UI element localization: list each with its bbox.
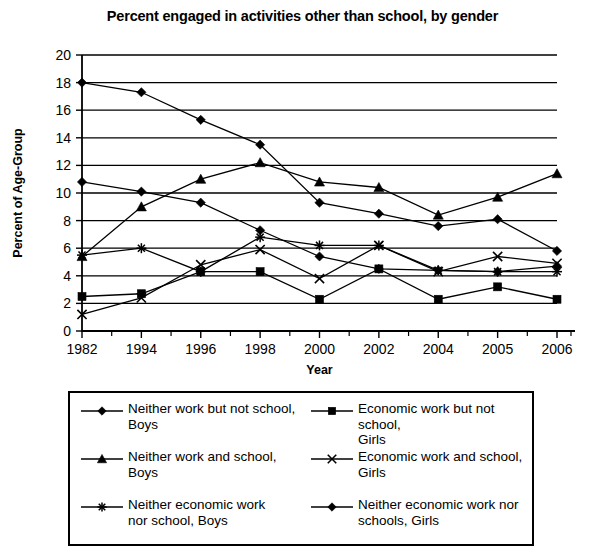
data-point-asterisk-icon: [136, 243, 146, 253]
data-point-asterisk-icon: [315, 240, 325, 250]
data-point-square-icon: [553, 295, 561, 303]
legend-item-neither-economic-work-nor-schools-girls[interactable]: Neither economic work nor schools, Girls: [310, 497, 536, 528]
y-tick-label: 0: [63, 323, 71, 339]
data-point-square-icon: [256, 268, 264, 276]
x-tick-label: 2004: [423, 341, 454, 357]
legend-marker-diamond-icon: [80, 402, 124, 420]
data-point-diamond-icon: [374, 209, 383, 218]
x-axis-title: Year: [306, 363, 333, 377]
data-point-cross-icon: [256, 245, 265, 254]
legend-label: Economic work and school, Girls: [358, 449, 522, 480]
plot-area: 02468101214161820 1982199419961998200020…: [0, 30, 605, 380]
y-tick-label: 10: [55, 185, 71, 201]
legend-item-economic-work-but-not-school-girls[interactable]: Economic work but not school, Girls: [310, 401, 536, 448]
y-tick-label: 14: [55, 130, 71, 146]
x-tick-label: 1994: [126, 341, 157, 357]
legend-marker-asterisk-icon: [80, 498, 124, 516]
series-3: [78, 265, 561, 303]
y-tick-label: 18: [55, 75, 71, 91]
legend-marker-cross-icon: [310, 450, 354, 468]
data-point-diamond-icon: [98, 407, 106, 415]
data-point-asterisk-icon: [97, 502, 106, 511]
data-point-diamond-icon: [196, 198, 205, 207]
data-point-diamond-icon: [77, 78, 86, 87]
x-tick-label: 2000: [304, 341, 335, 357]
x-tick-label: 1996: [185, 341, 216, 357]
y-tick-label: 2: [63, 295, 71, 311]
data-point-square-icon: [494, 283, 502, 291]
series-layer: [77, 78, 562, 319]
data-point-triangle-icon: [136, 202, 146, 211]
x-tick-label: 1998: [245, 341, 276, 357]
chart-title: Percent engaged in activities other than…: [0, 8, 605, 24]
data-point-diamond-icon: [196, 115, 205, 124]
data-point-diamond-icon: [137, 187, 146, 196]
x-axis: 198219941996199820002002200420052006: [66, 331, 575, 357]
legend-label: Economic work but not school, Girls: [358, 401, 536, 448]
legend: Neither work but not school, Boys Neithe…: [68, 391, 534, 546]
chart-root: Percent engaged in activities other than…: [0, 0, 605, 560]
data-point-diamond-icon: [137, 88, 146, 97]
data-point-diamond-icon: [77, 177, 86, 186]
legend-item-neither-work-but-not-school-boys[interactable]: Neither work but not school, Boys: [80, 401, 310, 432]
y-tick-label: 4: [63, 268, 71, 284]
data-point-square-icon: [78, 293, 86, 301]
series-5: [77, 177, 561, 276]
legend-item-neither-work-and-school-boys[interactable]: Neither work and school, Boys: [80, 449, 310, 480]
y-tick-label: 20: [55, 47, 71, 63]
y-tick-label: 8: [63, 213, 71, 229]
data-point-square-icon: [434, 295, 442, 303]
data-point-diamond-icon: [315, 252, 324, 261]
series-0: [77, 78, 561, 256]
series-line: [82, 83, 557, 251]
data-point-asterisk-icon: [77, 250, 87, 260]
legend-item-neither-economic-work-nor-school-boys[interactable]: Neither economic work nor school, Boys: [80, 497, 310, 528]
x-tick-label: 2005: [482, 341, 513, 357]
legend-label: Neither work and school, Boys: [128, 449, 277, 480]
data-point-triangle-icon: [315, 177, 325, 186]
x-tick-label: 1982: [66, 341, 97, 357]
legend-marker-diamond-icon: [310, 498, 354, 516]
legend-marker-triangle-icon: [80, 450, 124, 468]
legend-label: Neither economic work nor schools, Girls: [358, 497, 519, 528]
x-tick-label: 2006: [541, 341, 572, 357]
y-tick-label: 16: [55, 102, 71, 118]
data-point-diamond-icon: [493, 215, 502, 224]
y-tick-label: 6: [63, 240, 71, 256]
legend-item-economic-work-and-school-girls[interactable]: Economic work and school, Girls: [310, 449, 536, 480]
legend-label: Neither work but not school, Boys: [128, 401, 295, 432]
data-point-square-icon: [328, 407, 335, 414]
data-point-square-icon: [316, 295, 324, 303]
series-line: [82, 269, 557, 299]
y-tick-label: 12: [55, 157, 71, 173]
data-point-square-icon: [197, 268, 205, 276]
x-tick-label: 2002: [363, 341, 394, 357]
legend-label: Neither economic work nor school, Boys: [128, 497, 265, 528]
data-point-triangle-icon: [552, 169, 562, 178]
data-point-diamond-icon: [434, 222, 443, 231]
data-point-triangle-icon: [255, 158, 265, 167]
legend-marker-square-icon: [310, 402, 354, 420]
data-point-diamond-icon: [328, 503, 336, 511]
y-axis-title: Percent of Age-Group: [11, 128, 25, 258]
